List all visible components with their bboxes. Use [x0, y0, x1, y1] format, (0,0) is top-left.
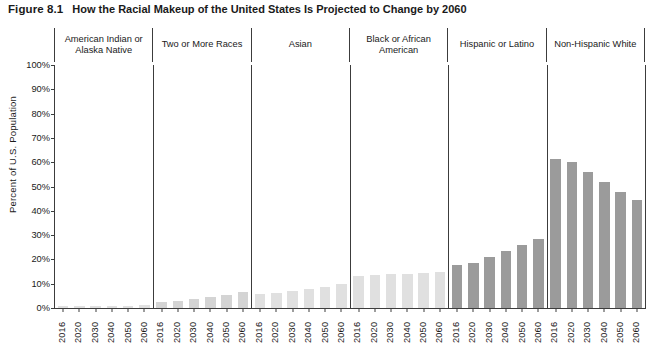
bar[interactable] [402, 274, 413, 309]
bar[interactable] [173, 301, 184, 308]
bar[interactable] [107, 306, 118, 308]
x-tick-mark [177, 308, 178, 312]
bar[interactable] [156, 302, 167, 308]
x-label-group-0: 201620202030204020502060 [54, 313, 153, 343]
bar[interactable] [468, 263, 479, 308]
x-tick-mark [423, 308, 424, 312]
x-tick-label: 2060 [336, 313, 347, 343]
x-tick-mark [473, 308, 474, 312]
y-axis-title: Percent of U.S. Population [7, 55, 18, 255]
bar[interactable] [304, 289, 315, 308]
x-tick-label: 2020 [172, 313, 183, 343]
panel-label-0: American Indian or Alaska Native [55, 28, 153, 62]
x-tick-label: 2060 [533, 313, 544, 343]
x-tick-label: 2016 [451, 313, 462, 343]
x-tick-mark [63, 308, 64, 312]
bar[interactable] [123, 306, 134, 308]
x-tick-mark [489, 308, 490, 312]
x-tick-label: 2020 [467, 313, 478, 343]
figure-title: How the Racial Makeup of the United Stat… [72, 3, 466, 15]
x-tick-label: 2060 [237, 313, 248, 343]
bar[interactable] [271, 293, 282, 308]
x-tick-label: 2050 [221, 313, 232, 343]
panel-header-band: American Indian or Alaska NativeTwo or M… [54, 28, 645, 62]
x-tick-label: 2020 [270, 313, 281, 343]
x-tick-label: 2040 [106, 313, 117, 343]
bar-group-4 [449, 65, 548, 308]
bar[interactable] [452, 265, 463, 308]
x-tick-label: 2060 [434, 313, 445, 343]
bar[interactable] [90, 306, 101, 308]
x-tick-label: 2040 [303, 313, 314, 343]
x-tick-mark [210, 308, 211, 312]
x-tick-label: 2030 [188, 313, 199, 343]
bar[interactable] [238, 292, 249, 308]
bar[interactable] [615, 192, 626, 308]
panel-label-5: Non-Hispanic White [547, 28, 644, 62]
bar[interactable] [632, 200, 643, 308]
bar[interactable] [336, 284, 347, 308]
bar[interactable] [320, 287, 331, 308]
x-tick-mark [588, 308, 589, 312]
panel-label-4: Hispanic or Latino [448, 28, 546, 62]
x-tick-mark [111, 308, 112, 312]
x-tick-mark [260, 308, 261, 312]
x-tick-label: 2050 [418, 313, 429, 343]
bar-group-1 [154, 65, 253, 308]
x-tick-label: 2016 [57, 313, 68, 343]
x-tick-mark [276, 308, 277, 312]
x-tick-label: 2040 [599, 313, 610, 343]
x-tick-label: 2030 [287, 313, 298, 343]
x-tick-mark [194, 308, 195, 312]
bar[interactable] [370, 275, 381, 308]
bar[interactable] [418, 273, 429, 308]
x-tick-mark [604, 308, 605, 312]
figure-body: Percent of U.S. Population American Indi… [0, 24, 651, 341]
x-tick-mark [358, 308, 359, 312]
x-tick-mark [95, 308, 96, 312]
bar[interactable] [205, 297, 216, 308]
x-label-group-2: 201620202030204020502060 [251, 313, 350, 343]
bar[interactable] [189, 299, 200, 308]
x-tick-label: 2016 [155, 313, 166, 343]
bar[interactable] [567, 162, 578, 308]
bar[interactable] [599, 182, 610, 308]
x-tick-mark [242, 308, 243, 312]
bar[interactable] [533, 239, 544, 308]
plot-area: 0%10%20%30%40%50%60%70%80%90%100% [54, 65, 646, 309]
panel-label-3: Black or African American [350, 28, 448, 62]
x-tick-mark [571, 308, 572, 312]
x-label-group-5: 201620202030204020502060 [547, 313, 646, 343]
x-tick-mark [144, 308, 145, 312]
x-tick-label: 2016 [352, 313, 363, 343]
figure-number: Figure 8.1 [8, 3, 63, 15]
bar[interactable] [221, 295, 232, 308]
x-tick-label: 2016 [549, 313, 560, 343]
bar[interactable] [550, 159, 561, 308]
x-tick-mark [407, 308, 408, 312]
x-tick-label: 2040 [402, 313, 413, 343]
bar-group-3 [351, 65, 450, 308]
bar[interactable] [74, 306, 85, 308]
x-tick-mark [555, 308, 556, 312]
bar[interactable] [583, 172, 594, 308]
bar[interactable] [517, 245, 528, 308]
x-label-group-3: 201620202030204020502060 [350, 313, 449, 343]
bar[interactable] [435, 272, 446, 308]
x-tick-label: 2030 [582, 313, 593, 343]
bar[interactable] [287, 291, 298, 308]
bar[interactable] [353, 276, 364, 308]
x-tick-label: 2030 [385, 313, 396, 343]
bar[interactable] [386, 274, 397, 308]
bar[interactable] [501, 251, 512, 308]
bar[interactable] [139, 305, 150, 308]
bar[interactable] [58, 306, 69, 308]
bar[interactable] [484, 257, 495, 308]
x-tick-label: 2050 [615, 313, 626, 343]
x-tick-mark [636, 308, 637, 312]
x-tick-mark [128, 308, 129, 312]
x-tick-label: 2050 [320, 313, 331, 343]
x-axis-labels: 2016202020302040205020602016202020302040… [54, 313, 645, 343]
bar[interactable] [255, 294, 266, 308]
x-tick-label: 2020 [369, 313, 380, 343]
